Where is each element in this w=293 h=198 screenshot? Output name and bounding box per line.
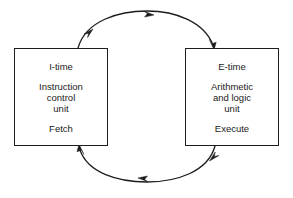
node-i-time-body: Instruction control unit xyxy=(39,81,83,114)
node-i-time-body-line-1: Instruction xyxy=(39,81,83,92)
top-arc-path xyxy=(78,11,213,48)
bottom-arc-path xyxy=(80,146,215,182)
node-e-time-title: E-time xyxy=(218,61,245,72)
node-i-time-action: Fetch xyxy=(49,123,73,134)
node-e-time: E-time Arithmetic and logic unit Execute xyxy=(185,48,279,146)
node-i-time-body-line-3: unit xyxy=(39,103,83,114)
node-i-time: I-time Instruction control unit Fetch xyxy=(14,48,108,146)
node-e-time-body-line-3: unit xyxy=(211,103,253,114)
bottom-arc-arrowhead-start xyxy=(210,152,220,161)
node-e-time-body: Arithmetic and logic unit xyxy=(211,81,253,114)
node-e-time-action: Execute xyxy=(215,123,249,134)
node-i-time-body-line-2: control xyxy=(39,92,83,103)
bottom-arc-arrowhead-mid xyxy=(138,176,148,182)
bottom-arc-group xyxy=(77,144,219,182)
top-arc-group xyxy=(78,11,216,50)
instruction-cycle-diagram: I-time Instruction control unit Fetch E-… xyxy=(0,0,293,198)
node-i-time-title: I-time xyxy=(49,61,73,72)
top-arc-arrowhead-start xyxy=(84,29,93,38)
node-e-time-body-line-2: and logic xyxy=(211,92,253,103)
top-arc-arrowhead-mid xyxy=(144,11,154,17)
node-e-time-body-line-1: Arithmetic xyxy=(211,81,253,92)
